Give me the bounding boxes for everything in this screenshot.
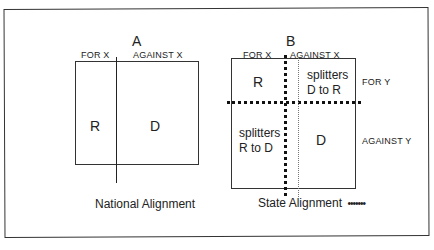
panel-b-row-label-for-y: FOR Y xyxy=(362,77,390,87)
splitters-r-to-d-line1: splitters xyxy=(239,126,280,141)
panel-a-letter: A xyxy=(132,33,141,49)
panel-b-caption: State Alignment ••••••• xyxy=(258,196,365,210)
panel-a-box xyxy=(75,61,199,165)
panel-a-cell-r: R xyxy=(90,118,100,134)
panel-b-letter: B xyxy=(286,33,295,49)
panel-b-cell-splitters-d-to-r: splitters D to R xyxy=(307,68,348,98)
panel-b-cell-d: D xyxy=(316,132,326,148)
splitters-d-to-r-line1: splitters xyxy=(307,68,348,83)
panel-a-col-label-against-x: AGAINST X xyxy=(133,50,183,60)
panel-a-national-divider-line xyxy=(116,57,117,183)
panel-a-cell-d: D xyxy=(150,118,160,134)
panel-b-cell-splitters-r-to-d: splitters R to D xyxy=(239,126,280,156)
splitters-d-to-r-line2: D to R xyxy=(307,83,348,98)
panel-b-caption-text: State Alignment xyxy=(258,196,342,210)
panel-b-row-label-against-y: AGAINST Y xyxy=(362,136,412,146)
panel-b-state-vertical-divider xyxy=(284,55,287,196)
figure-frame xyxy=(4,7,430,238)
panel-a-caption: National Alignment xyxy=(95,197,195,211)
splitters-r-to-d-line2: R to D xyxy=(239,141,280,156)
panel-b-national-divider-line xyxy=(298,57,299,197)
panel-b-state-horizontal-divider xyxy=(227,101,361,104)
panel-b-cell-r: R xyxy=(253,74,263,90)
panel-a-col-label-for-x: FOR X xyxy=(81,50,110,60)
dotted-line-legend-icon: ••••••• xyxy=(347,198,365,209)
